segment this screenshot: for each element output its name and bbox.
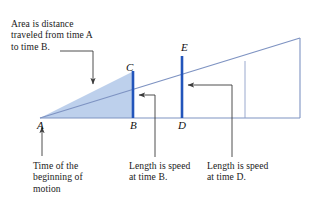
- figure-root: Area is distance traveled from time A to…: [0, 0, 310, 206]
- right-region-outline: [245, 38, 300, 118]
- connector-area-arrow: [60, 51, 93, 84]
- connector-speed-d-arrow: [188, 85, 232, 157]
- point-label-a: A: [37, 120, 44, 131]
- point-label-d: D: [178, 120, 186, 131]
- annotation-area-distance: Area is distance traveled from time A to…: [11, 18, 115, 52]
- connector-speed-b-arrow: [139, 95, 155, 157]
- annotation-speed-at-time-b: Length is speed at time B.: [129, 160, 205, 183]
- point-label-c: C: [126, 62, 133, 73]
- point-label-b: B: [130, 120, 137, 131]
- shaded-area-region: [40, 72, 133, 119]
- annotation-beginning-of-motion: Time of the beginning of motion: [33, 160, 111, 194]
- point-label-e: E: [181, 42, 188, 53]
- annotation-speed-at-time-d: Length is speed at time D.: [207, 160, 287, 183]
